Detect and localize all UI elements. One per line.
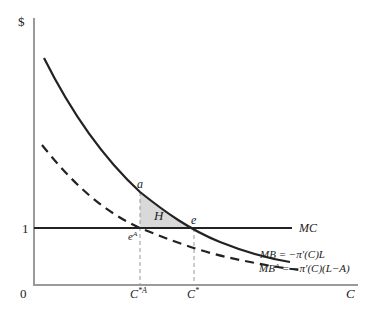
mba-label: MBA = −π′(C)(L−A) — [258, 262, 350, 275]
y-tick-label-1: 1 — [22, 221, 29, 236]
x-axis-label: C — [346, 286, 355, 301]
x-tick-c-star: C* — [187, 286, 199, 301]
x-tick-c-star-a: C*A — [130, 286, 147, 301]
point-ea-label: eA — [128, 230, 138, 242]
diagram-canvas: $ 1 0 C C*A C* a e eA H MC MB = −π′(C)L … — [0, 0, 374, 318]
mb-curve — [44, 58, 290, 262]
mc-label: MC — [298, 221, 318, 235]
origin-label: 0 — [20, 286, 27, 301]
y-axis-label: $ — [18, 14, 25, 29]
region-h-label: H — [153, 208, 164, 223]
mb-label: MB = −π′(C)L — [259, 248, 325, 261]
point-e-label: e — [191, 213, 197, 227]
point-a-label: a — [137, 177, 143, 191]
